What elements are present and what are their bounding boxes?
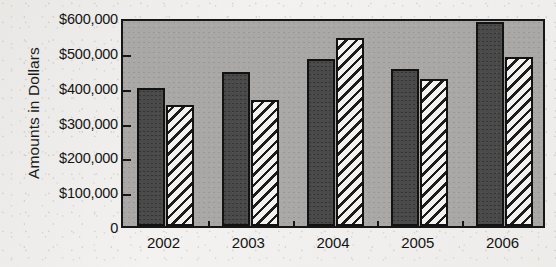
x-axis-tick-label-2004: 2004 [317, 234, 350, 251]
bar-chart: Amounts in Dollars 0$100,000$200,000$300… [0, 0, 556, 267]
bar-2006-series-1 [476, 22, 504, 226]
y-axis-tick-label: 0 [110, 220, 118, 236]
bar-group-2002 [137, 21, 194, 226]
y-axis-tick-label: $200,000 [59, 150, 118, 166]
bar-group-2006 [476, 21, 533, 226]
x-axis-tick-mark [293, 221, 295, 228]
bar-2005-series-2 [420, 79, 448, 226]
y-axis-tick-labels: 0$100,000$200,000$300,000$400,000$500,00… [18, 19, 118, 228]
y-axis-tick-label: $100,000 [59, 185, 118, 201]
y-axis-tick-mark [123, 159, 131, 161]
y-axis-tick-label: $500,000 [59, 46, 118, 62]
y-axis-tick-mark [123, 194, 131, 196]
x-axis-tick-label-2005: 2005 [401, 234, 434, 251]
x-axis-tick-label-2006: 2006 [486, 234, 519, 251]
bar-2002-series-1 [137, 88, 165, 226]
plot-background [123, 21, 543, 226]
x-axis-tick-label-2003: 2003 [232, 234, 265, 251]
y-axis-tick-label: $600,000 [59, 11, 118, 27]
bar-2004-series-1 [307, 59, 335, 226]
y-axis-tick-label: $300,000 [59, 116, 118, 132]
x-axis-tick-mark [462, 221, 464, 228]
x-axis-tick-mark [377, 221, 379, 228]
bar-2003-series-1 [222, 72, 250, 226]
bar-group-2003 [222, 21, 279, 226]
y-axis-tick-label: $400,000 [59, 81, 118, 97]
bar-group-2004 [307, 21, 364, 226]
plot-area [121, 19, 545, 228]
bar-2005-series-1 [391, 69, 419, 226]
bar-group-2005 [391, 21, 448, 226]
bar-2006-series-2 [505, 57, 533, 226]
x-axis-tick-label-2002: 2002 [147, 234, 180, 251]
bar-2004-series-2 [336, 38, 364, 226]
bar-2003-series-2 [251, 100, 279, 226]
y-axis-tick-mark [123, 90, 131, 92]
y-axis-tick-mark [123, 125, 131, 127]
x-axis-tick-mark [208, 221, 210, 228]
y-axis-tick-mark [123, 55, 131, 57]
x-axis-tick-labels: 20022003200420052006 [121, 234, 545, 260]
bar-2002-series-2 [166, 105, 194, 226]
